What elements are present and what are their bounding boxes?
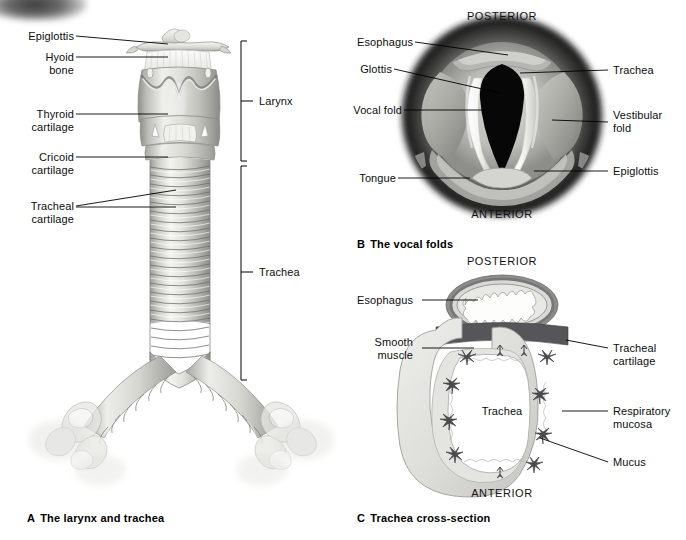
caption-text-b: The vocal folds <box>370 238 453 250</box>
label-vocal-fold: Vocal fold <box>331 104 402 117</box>
orientation-anterior-c: ANTERIOR <box>447 487 557 499</box>
caption-letter-c: C <box>357 512 365 524</box>
label-hyoid-bone: Hyoid bone <box>8 51 74 76</box>
panel-c-leaders <box>422 300 608 462</box>
label-vestibular-fold: Vestibular fold <box>613 109 683 134</box>
trachea-rings <box>150 158 210 361</box>
label-mucus: Mucus <box>613 456 673 469</box>
caption-panel-a: AThe larynx and trachea <box>27 512 164 524</box>
right-bronchus <box>186 356 278 444</box>
left-bronchus <box>84 356 176 444</box>
label-cricoid-cartilage: Cricoid cartilage <box>2 151 74 176</box>
label-esophagus-c: Esophagus <box>341 294 413 307</box>
label-respiratory-mucosa: Respiratory mucosa <box>613 405 685 430</box>
label-epiglottis-a: Epiglottis <box>8 30 74 43</box>
caption-text-c: Trachea cross-section <box>370 512 490 524</box>
label-tracheal-cartilage-a: Tracheal cartilage <box>2 200 74 225</box>
caption-panel-c: CTrachea cross-section <box>357 512 491 524</box>
panel-a-brackets <box>241 41 253 380</box>
panel-b-artwork <box>394 12 608 220</box>
label-thyroid-cartilage: Thyroid cartilage <box>2 108 74 133</box>
figure-page: Epiglottis Hyoid bone Thyroid cartilage … <box>0 0 686 540</box>
caption-letter-b: B <box>357 238 365 250</box>
figure-artwork <box>0 0 686 540</box>
caption-text-a: The larynx and trachea <box>40 512 164 524</box>
caption-panel-b: BThe vocal folds <box>357 238 453 250</box>
label-trachea-c: Trachea <box>467 405 537 418</box>
panel-a-leaders <box>76 36 176 207</box>
orientation-posterior-b: POSTERIOR <box>447 10 557 22</box>
esophagus-cross-section <box>446 275 558 335</box>
label-glottis: Glottis <box>341 63 392 76</box>
label-trachea-a: Trachea <box>259 266 319 279</box>
label-smooth-muscle: Smooth muscle <box>341 336 413 361</box>
label-trachea-b: Trachea <box>613 64 683 77</box>
label-tracheal-cartilage-c: Tracheal cartilage <box>613 342 685 367</box>
panel-b-leaders <box>394 42 608 178</box>
page-corner-artifact <box>0 0 87 20</box>
orientation-anterior-b: ANTERIOR <box>447 208 557 220</box>
label-esophagus-b: Esophagus <box>341 36 413 49</box>
label-epiglottis-b: Epiglottis <box>613 165 683 178</box>
orientation-posterior-c: POSTERIOR <box>447 255 557 267</box>
panel-c-artwork <box>397 275 608 497</box>
label-tongue: Tongue <box>341 172 396 185</box>
caption-letter-a: A <box>27 512 35 524</box>
label-larynx: Larynx <box>259 95 319 108</box>
